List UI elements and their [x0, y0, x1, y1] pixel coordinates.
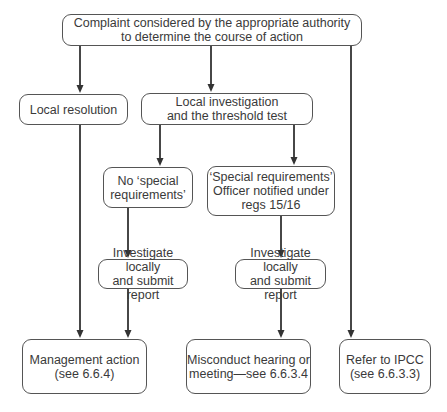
node-line: Investigate locally — [236, 246, 325, 274]
node-refer-to-ipcc: Refer to IPCC(see 6.6.3.3) — [339, 339, 431, 394]
node-line: Investigate locally — [99, 246, 187, 274]
node-line: meeting—see 6.6.3.4 — [187, 367, 310, 381]
arrowhead-icon — [77, 85, 84, 93]
node-line: (see 6.6.4) — [30, 367, 140, 381]
node-complaint-considered: Complaint considered by the appropriate … — [62, 14, 362, 46]
arrowhead-icon — [157, 158, 164, 166]
node-local-resolution: Local resolution — [19, 94, 128, 125]
node-line: and submit report — [99, 274, 187, 302]
node-line: Local investigation — [167, 95, 287, 109]
arrowhead-icon — [291, 157, 298, 165]
node-line: requirements’ — [110, 188, 186, 202]
node-investigate-locally-2: Investigate locallyand submit report — [235, 259, 326, 289]
node-line: (see 6.6.3.3) — [346, 367, 424, 381]
node-line: Local resolution — [30, 103, 118, 117]
arrowhead-icon — [125, 330, 132, 338]
node-line: regs 15/16 — [210, 198, 333, 212]
node-management-action: Management action(see 6.6.4) — [22, 339, 147, 394]
arrowhead-icon — [208, 84, 215, 92]
arrowhead-icon — [278, 330, 285, 338]
arrowhead-icon — [348, 330, 355, 338]
node-no-special-requirements: No ‘specialrequirements’ — [103, 167, 193, 208]
node-line: No ‘special — [110, 174, 186, 188]
node-line: and submit report — [236, 274, 325, 302]
node-misconduct-hearing: Misconduct hearing ormeeting—see 6.6.3.4 — [186, 339, 311, 394]
node-line: ‘Special requirements’ — [210, 170, 333, 184]
node-line: Misconduct hearing or — [187, 353, 310, 367]
node-special-requirements: ‘Special requirements’Officer notified u… — [207, 166, 335, 216]
node-line: to determine the course of action — [74, 30, 351, 44]
node-line: Officer notified under — [210, 184, 333, 198]
arrowhead-icon — [77, 330, 84, 338]
node-line: Management action — [30, 353, 140, 367]
node-line: and the threshold test — [167, 109, 287, 123]
node-line: Refer to IPCC — [346, 353, 424, 367]
node-local-investigation: Local investigationand the threshold tes… — [141, 93, 313, 125]
node-investigate-locally-1: Investigate locallyand submit report — [98, 259, 188, 289]
node-line: Complaint considered by the appropriate … — [74, 16, 351, 30]
